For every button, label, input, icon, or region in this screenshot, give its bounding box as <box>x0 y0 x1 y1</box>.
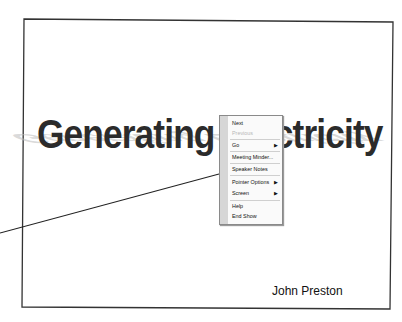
menu-item-label: Help <box>232 203 243 209</box>
menu-item-label: Go <box>232 142 239 148</box>
menu-icon-stripe <box>220 116 228 224</box>
menu-separator <box>230 139 280 140</box>
slide-title-container: Generating Electricity Generating Electr… <box>37 112 377 172</box>
menu-item-speaker-notes[interactable]: Speaker Notes <box>232 165 279 174</box>
menu-item-label: End Show <box>232 213 257 219</box>
menu-separator <box>230 163 280 164</box>
menu-item-previous: Previous <box>232 129 279 138</box>
menu-item-label: Screen <box>232 190 249 196</box>
menu-item-meeting-minder[interactable]: Meeting Minder... <box>232 153 279 162</box>
menu-item-label: Speaker Notes <box>232 166 268 172</box>
menu-item-help[interactable]: Help <box>232 202 279 211</box>
menu-item-label: Meeting Minder... <box>232 154 273 160</box>
menu-item-next[interactable]: Next <box>232 119 279 128</box>
submenu-arrow-icon: ▶ <box>274 178 278 187</box>
menu-item-label: Next <box>232 120 243 126</box>
slide-author: John Preston <box>272 284 343 298</box>
submenu-arrow-icon: ▶ <box>274 189 278 198</box>
menu-item-end-show[interactable]: End Show <box>232 212 279 221</box>
menu-item-pointer-options[interactable]: Pointer Options ▶ <box>232 178 279 187</box>
menu-item-go[interactable]: Go ▶ <box>232 141 279 150</box>
callout-leader-line <box>0 174 219 233</box>
menu-item-label: Previous <box>232 130 253 136</box>
menu-item-screen[interactable]: Screen ▶ <box>232 189 279 198</box>
slide-title: Generating Electricity <box>37 112 383 156</box>
menu-separator <box>230 151 280 152</box>
submenu-arrow-icon: ▶ <box>274 141 278 150</box>
menu-separator <box>230 175 280 176</box>
slideshow-context-menu: Next Previous Go ▶ Meeting Minder... Spe… <box>219 115 283 225</box>
menu-separator <box>230 200 280 201</box>
menu-item-label: Pointer Options <box>232 179 269 185</box>
